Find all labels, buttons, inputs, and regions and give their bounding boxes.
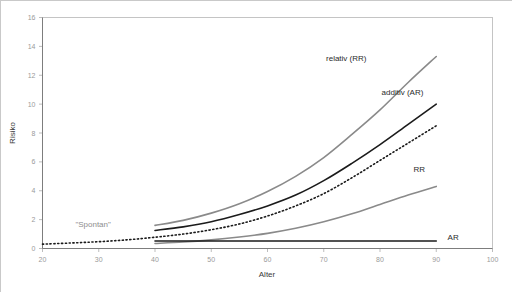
annotation-additivar: additiv (AR) [382,88,424,97]
y-tick-label: 10 [28,101,36,108]
x-axis-title: Alter [259,270,276,279]
y-tick-label: 6 [32,158,36,165]
risiko-alter-line-chart: 2030405060708090100 0246810121416 "Spont… [1,1,512,292]
x-tick-label: 100 [487,256,499,263]
y-tick-label: 12 [28,72,36,79]
y-tick-label: 14 [28,43,36,50]
x-tick-label: 20 [39,256,47,263]
x-tick-label: 30 [95,256,103,263]
x-tick-label: 40 [151,256,159,263]
x-tick-label: 80 [376,256,384,263]
y-axis-title: Risiko [8,122,17,144]
chart-figure: 2030405060708090100 0246810121416 "Spont… [0,0,512,292]
x-tick-label: 50 [207,256,215,263]
y-tick-label: 4 [32,187,36,194]
x-tick-label: 90 [432,256,440,263]
y-tick-label: 16 [28,14,36,21]
annotation-rr: RR [414,165,426,174]
annotation-relativrr: relativ (RR) [326,54,367,63]
x-tick-label: 60 [264,256,272,263]
annotation-ar: AR [448,233,459,242]
y-tick-label: 8 [32,130,36,137]
y-tick-label: 0 [32,245,36,252]
y-tick-label: 2 [32,216,36,223]
x-tick-label: 70 [320,256,328,263]
annotation-spontan: "Spontan" [75,220,111,229]
